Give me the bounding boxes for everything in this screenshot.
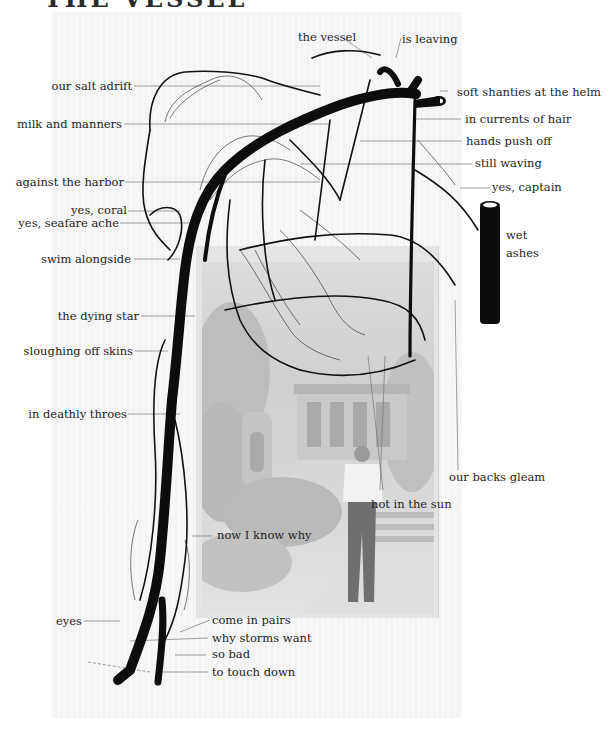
label-milk-and-manners: milk and manners — [17, 117, 122, 131]
label-the-vessel: the vessel — [298, 30, 356, 44]
label-the-dying-star: the dying star — [58, 309, 139, 323]
label-our-backs-gleam: our backs gleam — [449, 470, 545, 484]
label-sloughing-off-skins: sloughing off skins — [24, 344, 133, 358]
label-come-in-pairs: come in pairs — [212, 613, 291, 627]
severed-vessel — [480, 201, 500, 324]
label-ashes: ashes — [506, 246, 539, 260]
label-why-storms-want: why storms want — [212, 631, 312, 645]
label-to-touch-down: to touch down — [212, 665, 295, 679]
label-hands-push-off: hands push off — [466, 134, 551, 148]
vessel-illustration — [0, 0, 613, 731]
label-yes-seafare-ache: yes, seafare ache — [18, 216, 119, 230]
main-vessel — [118, 69, 418, 682]
label-yes-captain: yes, captain — [492, 180, 562, 194]
veins — [140, 51, 478, 640]
label-now-i-know-why: now I know why — [217, 528, 312, 542]
label-hot-in-the-sun: hot in the sun — [371, 497, 452, 511]
label-eyes: eyes — [56, 614, 82, 628]
label-wet: wet — [506, 228, 527, 242]
label-in-deathly-throes: in deathly throes — [28, 407, 127, 421]
label-our-salt-adrift: our salt adrift — [52, 79, 132, 93]
label-swim-alongside: swim alongside — [41, 252, 131, 266]
label-against-the-harbor: against the harbor — [16, 175, 124, 189]
label-in-currents-of-hair: in currents of hair — [465, 112, 571, 126]
label-yes-coral: yes, coral — [71, 203, 127, 217]
label-so-bad: so bad — [212, 647, 250, 661]
label-soft-shanties: soft shanties at the helm — [457, 85, 601, 99]
label-is-leaving: is leaving — [402, 32, 458, 46]
label-still-waving: still waving — [475, 156, 542, 170]
